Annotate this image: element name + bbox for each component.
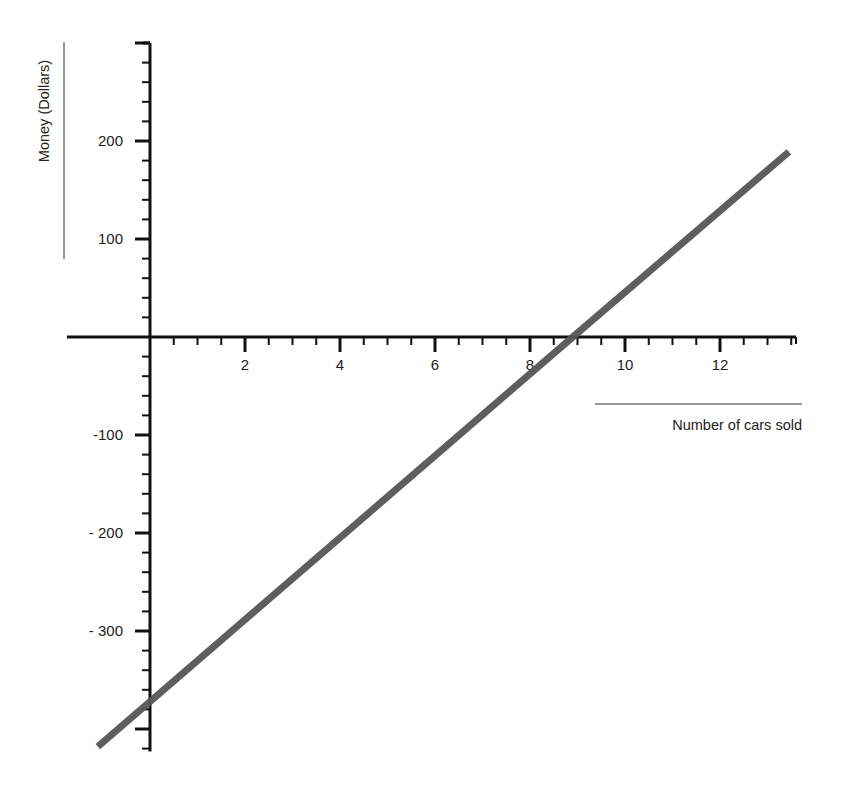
- x-tick-label: 2: [241, 356, 249, 373]
- y-tick-label: - 200: [89, 524, 123, 541]
- chart: Money (Dollars) Number of cars sold 2468…: [0, 0, 841, 790]
- x-tick-label: 10: [617, 356, 634, 373]
- axis-tick-labels: 24681012200100-100- 200- 300: [89, 132, 729, 639]
- x-tick-label: 4: [336, 356, 344, 373]
- y-axis-title: Money (Dollars): [36, 60, 52, 162]
- data-series: [98, 152, 789, 747]
- y-tick-label: -100: [93, 426, 123, 443]
- x-axis-title: Number of cars sold: [672, 417, 802, 433]
- axis-ticks: [135, 43, 791, 749]
- y-tick-label: - 300: [89, 622, 123, 639]
- data-line: [98, 152, 789, 747]
- axes: [67, 43, 796, 752]
- x-tick-label: 6: [431, 356, 439, 373]
- x-tick-label: 12: [712, 356, 729, 373]
- y-axis-title-group: Money (Dollars): [36, 42, 64, 259]
- x-axis-title-group: Number of cars sold: [595, 404, 802, 433]
- y-tick-label: 100: [98, 230, 123, 247]
- y-tick-label: 200: [98, 132, 123, 149]
